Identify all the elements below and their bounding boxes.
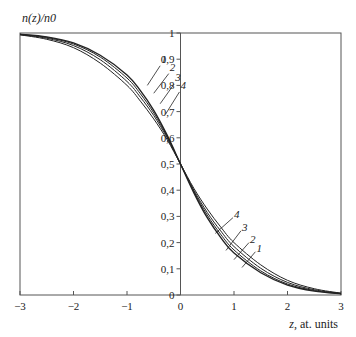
x-tick-label: −2: [68, 300, 80, 312]
curve-label-4: 4: [181, 79, 187, 91]
curve-label-leader: [147, 66, 160, 86]
y-tick-label: 0,1: [161, 263, 175, 275]
curve-label-1: 1: [256, 242, 262, 254]
y-tick-label: 0,4: [161, 184, 175, 196]
y-tick-label: 0,2: [161, 237, 175, 249]
y-tick-label: 0,7: [161, 106, 175, 118]
x-axis: −3−2−10123: [14, 291, 344, 312]
x-tick-label: 1: [231, 300, 237, 312]
curve-label-3: 3: [241, 221, 248, 233]
x-tick-label: 3: [338, 300, 344, 312]
x-axis-title-unit: , at. units: [294, 317, 338, 331]
y-tick-label: 0,5: [161, 158, 175, 170]
y-tick-label: 0,3: [161, 210, 175, 222]
x-tick-label: 2: [285, 300, 291, 312]
y-tick-label: 1: [169, 27, 175, 39]
x-tick-label: 0: [178, 300, 184, 312]
curve-label-2: 2: [250, 233, 256, 245]
y-tick-label: 0: [169, 289, 175, 301]
x-tick-label: −3: [14, 300, 26, 312]
chart: −3−2−10123 00,10,20,30,40,50,60,70,80,91…: [0, 0, 356, 337]
x-tick-label: −1: [121, 300, 133, 312]
curve-label-1: 1: [161, 53, 167, 65]
curve-label-4: 4: [234, 208, 240, 220]
x-axis-title: z, at. units: [288, 317, 338, 331]
y-axis-title: n(z)/n0: [22, 11, 56, 25]
